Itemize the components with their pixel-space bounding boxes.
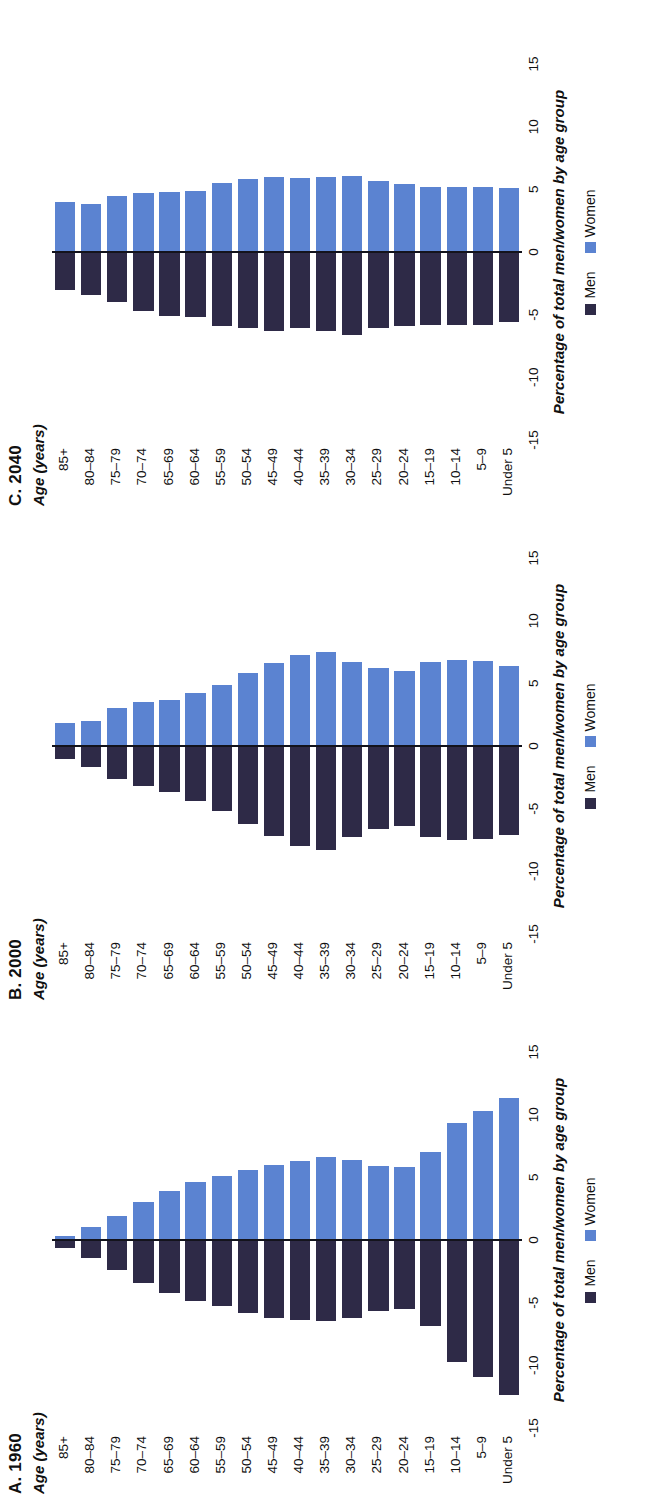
bar-men [290, 746, 310, 846]
zero-axis-line [52, 251, 522, 254]
bar-women [55, 723, 75, 746]
bar-women [238, 1170, 258, 1240]
category-label: 50–54 [240, 1436, 254, 1474]
legend-item-men: Men [582, 1259, 598, 1302]
bar-women [499, 1098, 519, 1240]
category-label: 80–84 [83, 448, 97, 486]
bar-women [447, 660, 467, 746]
bar-men [342, 252, 362, 335]
category-label: 75–79 [109, 448, 123, 486]
population-pyramid-figure: A. 1960 Age (years) 85+80–8475–7970–7465… [0, 0, 662, 1494]
bar-women [185, 191, 205, 252]
category-axis-title: Age (years) [30, 918, 47, 1000]
axis-tick-label: 10 [526, 119, 541, 134]
bar-men [238, 252, 258, 328]
bar-men [107, 746, 127, 779]
bar-men [290, 1240, 310, 1320]
category-label: 40–44 [292, 942, 306, 980]
bar-men [81, 746, 101, 767]
bar-men [212, 746, 232, 811]
bar-women [394, 1167, 414, 1240]
bar-women [473, 1111, 493, 1240]
axis-tick-label: -15 [526, 1418, 541, 1438]
bar-women [81, 721, 101, 746]
axis-tick-label: 15 [526, 56, 541, 71]
bar-women [316, 177, 336, 252]
legend-item-men: Men [582, 765, 598, 808]
bar-men [133, 746, 153, 786]
axis-tick-label: 5 [526, 1174, 541, 1182]
bar-men [499, 1240, 519, 1395]
category-label: 50–54 [240, 942, 254, 980]
bar-men [316, 1240, 336, 1321]
bar-men [264, 252, 284, 331]
category-label: 55–59 [214, 942, 228, 980]
category-labels: 85+80–8475–7970–7465–6960–6455–5950–5445… [52, 444, 522, 506]
category-label: 5–9 [475, 942, 489, 965]
category-label: 65–69 [162, 1436, 176, 1474]
zero-axis-line [52, 745, 522, 748]
axis-tick-label: 0 [526, 248, 541, 256]
bar-women [133, 193, 153, 252]
category-label: 35–39 [318, 1436, 332, 1474]
bar-men [81, 252, 101, 295]
bar-men [447, 746, 467, 840]
bar-men [185, 1240, 205, 1301]
bar-men [185, 746, 205, 801]
legend: Men Women [582, 64, 598, 440]
category-axis-title: Age (years) [30, 1412, 47, 1494]
bar-men [133, 1240, 153, 1283]
category-label: 20–24 [397, 1436, 411, 1474]
legend-item-women: Women [582, 683, 598, 747]
bar-men [473, 252, 493, 325]
bar-men [447, 252, 467, 325]
axis-tick-label: -5 [526, 309, 541, 321]
axis-tick-label: -10 [526, 368, 541, 388]
category-label: 80–84 [83, 942, 97, 980]
bar-men [238, 1240, 258, 1313]
women-swatch-icon [585, 1230, 596, 1241]
bar-women [420, 1152, 440, 1240]
bar-women [368, 668, 388, 746]
bar-men [81, 1240, 101, 1258]
bar-men [316, 746, 336, 850]
legend-item-women: Women [582, 189, 598, 253]
men-swatch-icon [585, 798, 596, 809]
bar-women [473, 187, 493, 252]
women-swatch-icon [585, 736, 596, 747]
category-axis-title: Age (years) [30, 424, 47, 506]
axis-tick-label: -15 [526, 430, 541, 450]
plot-area [52, 64, 522, 440]
legend-item-men: Men [582, 271, 598, 314]
bar-men [290, 252, 310, 328]
category-label: 40–44 [292, 448, 306, 486]
axis-tick-label: -5 [526, 1297, 541, 1309]
legend-label-women: Women [582, 1177, 598, 1225]
category-label: 5–9 [475, 1436, 489, 1459]
axis-tick-label: 5 [526, 186, 541, 194]
axis-tick-label: 10 [526, 613, 541, 628]
plot-area [52, 1052, 522, 1428]
bar-men [394, 746, 414, 826]
bar-men [447, 1240, 467, 1362]
bar-men [264, 746, 284, 836]
category-label: 20–24 [397, 448, 411, 486]
panel-title: C. 2040 [6, 445, 26, 506]
category-labels: 85+80–8475–7970–7465–6960–6455–5950–5445… [52, 938, 522, 1000]
bar-men [368, 746, 388, 829]
axis-tick-label: 0 [526, 742, 541, 750]
legend: Men Women [582, 1052, 598, 1428]
bar-women [264, 1165, 284, 1240]
panel-title: A. 1960 [6, 1433, 26, 1494]
bar-women [316, 652, 336, 746]
bar-women [159, 1191, 179, 1240]
bar-women [394, 184, 414, 252]
bar-women [264, 177, 284, 252]
bar-men [55, 746, 75, 759]
category-label: 85+ [57, 448, 71, 471]
bar-women [212, 1176, 232, 1240]
category-label: 75–79 [109, 1436, 123, 1474]
bar-women [290, 655, 310, 746]
bar-women [499, 666, 519, 746]
category-label: 75–79 [109, 942, 123, 980]
